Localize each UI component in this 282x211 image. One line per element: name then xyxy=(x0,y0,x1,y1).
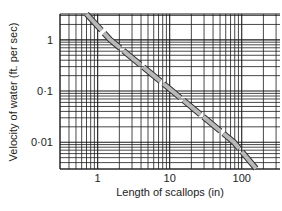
chart: 110100 10·10·01 Length of scallops (in) … xyxy=(0,0,282,211)
y-tick-label: 1 xyxy=(47,34,53,46)
x-tick-label: 1 xyxy=(95,172,101,184)
x-tick-label: 100 xyxy=(233,172,251,184)
y-tick-label: 0·1 xyxy=(37,85,53,97)
y-axis-ticks: 10·10·01 xyxy=(31,34,53,148)
y-tick-label: 0·01 xyxy=(31,136,53,148)
x-axis-ticks: 110100 xyxy=(95,172,251,184)
x-axis-label: Length of scallops (in) xyxy=(116,186,224,198)
y-axis-label: Velocity of water (ft. per sec) xyxy=(7,23,19,162)
x-tick-label: 10 xyxy=(164,172,176,184)
